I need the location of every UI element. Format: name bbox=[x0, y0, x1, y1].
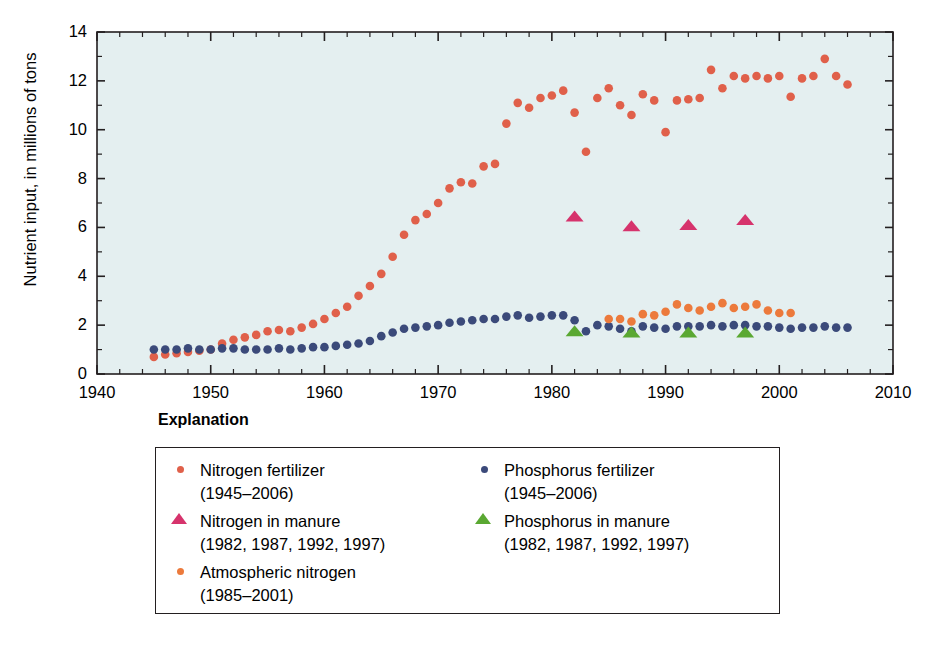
legend-label: Phosphorus in manure bbox=[504, 510, 774, 533]
legend-dot-icon bbox=[481, 466, 488, 473]
legend-column-left: Nitrogen fertilizer(1945–2006)Nitrogen i… bbox=[170, 459, 470, 612]
legend-triangle-icon bbox=[171, 513, 187, 524]
y-tick-label: 4 bbox=[47, 266, 87, 285]
y-tick-label: 14 bbox=[47, 22, 87, 41]
explanation-title: Explanation bbox=[158, 411, 249, 429]
x-tick-label: 1970 bbox=[403, 383, 473, 402]
legend-range: (1945–2006) bbox=[504, 482, 774, 505]
y-tick-label: 8 bbox=[47, 169, 87, 188]
legend-dot-icon bbox=[177, 568, 184, 575]
x-tick-label: 1950 bbox=[176, 383, 246, 402]
y-tick-label: 12 bbox=[47, 71, 87, 90]
figure-container: Nutrient input, in millions of tons 0246… bbox=[0, 0, 935, 662]
legend-label: Nitrogen fertilizer bbox=[200, 459, 470, 482]
x-tick-label: 1960 bbox=[289, 383, 359, 402]
legend-label: Phosphorus fertilizer bbox=[504, 459, 774, 482]
legend-range: (1982, 1987, 1992, 1997) bbox=[200, 533, 470, 556]
legend-dot-icon bbox=[177, 466, 184, 473]
legend-range: (1985–2001) bbox=[200, 584, 470, 607]
legend-column-right: Phosphorus fertilizer(1945–2006)Phosphor… bbox=[474, 459, 774, 561]
legend-range: (1945–2006) bbox=[200, 482, 470, 505]
legend-entry: Nitrogen fertilizer(1945–2006) bbox=[170, 459, 470, 505]
y-tick-label: 0 bbox=[47, 364, 87, 383]
legend-label: Nitrogen in manure bbox=[200, 510, 470, 533]
y-tick-label: 10 bbox=[47, 120, 87, 139]
legend-entry: Nitrogen in manure(1982, 1987, 1992, 199… bbox=[170, 510, 470, 556]
legend-range: (1982, 1987, 1992, 1997) bbox=[504, 533, 774, 556]
x-tick-label: 2010 bbox=[858, 383, 928, 402]
x-tick-label: 1990 bbox=[631, 383, 701, 402]
legend-label: Atmospheric nitrogen bbox=[200, 561, 470, 584]
legend-entry: Atmospheric nitrogen(1985–2001) bbox=[170, 561, 470, 607]
y-axis-label: Nutrient input, in millions of tons bbox=[21, 0, 40, 350]
x-tick-label: 2000 bbox=[744, 383, 814, 402]
legend-entry: Phosphorus fertilizer(1945–2006) bbox=[474, 459, 774, 505]
x-tick-label: 1940 bbox=[62, 383, 132, 402]
y-tick-label: 2 bbox=[47, 315, 87, 334]
x-tick-label: 1980 bbox=[517, 383, 587, 402]
legend-box: Nitrogen fertilizer(1945–2006)Nitrogen i… bbox=[155, 447, 780, 614]
legend-entry: Phosphorus in manure(1982, 1987, 1992, 1… bbox=[474, 510, 774, 556]
legend-triangle-icon bbox=[475, 513, 491, 524]
y-tick-label: 6 bbox=[47, 217, 87, 236]
